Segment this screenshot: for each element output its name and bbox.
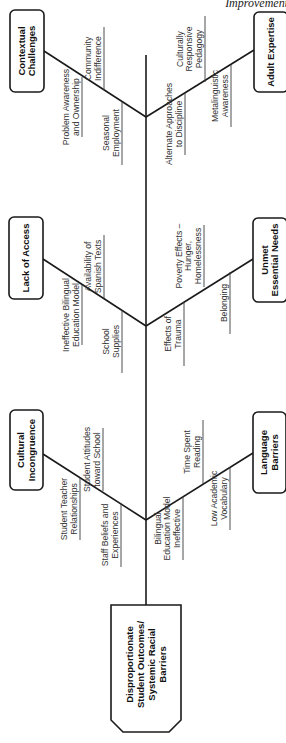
svg-text:Lack of Access: Lack of Access — [20, 224, 31, 293]
svg-text:SeasonalEmployment: SeasonalEmployment — [101, 109, 121, 157]
svg-text:Availability ofSpanish Texts: Availability ofSpanish Texts — [83, 240, 103, 293]
cause-label: Student Attitudestoward School — [82, 427, 102, 492]
svg-text:Low AcademicVocabulary: Low AcademicVocabulary — [209, 470, 229, 526]
cause-label: Staff Beliefs andExperiences — [100, 504, 120, 567]
svg-text:CulturallyResponsivePedagogy: CulturallyResponsivePedagogy — [175, 26, 205, 71]
adult-expertise-box: Adult Expertise — [254, 12, 286, 92]
problem-head: DisproportionateStudent Outcomes/Systemi… — [111, 605, 181, 732]
svg-text:Adult Expertise: Adult Expertise — [265, 17, 276, 87]
svg-text:Student TeacherRelationships: Student TeacherRelationships — [59, 478, 79, 541]
cause-label: SeasonalEmployment — [101, 109, 121, 157]
cause-label: CulturallyResponsivePedagogy — [175, 26, 205, 71]
cause-label: Student TeacherRelationships — [59, 478, 79, 541]
contextual-challenges-label: ContextualChallenges — [16, 26, 38, 77]
contextual-challenges-box: ContextualChallenges — [10, 10, 44, 92]
svg-text:SchoolSupplies: SchoolSupplies — [101, 325, 121, 358]
cause-label: CommunityIndifference — [83, 36, 103, 81]
adult-expertise-label: Adult Expertise — [265, 17, 276, 87]
svg-text:Poverty Effects –Hunger,Homele: Poverty Effects –Hunger,Homelessness — [174, 223, 204, 288]
lack-of-access-box: Lack of Access — [9, 217, 43, 299]
cause-label: Ineffective BilingualEducation Model — [61, 278, 81, 352]
svg-text:CommunityIndifference: CommunityIndifference — [83, 36, 103, 81]
language-barriers-box: LanguageBarriers — [253, 412, 286, 493]
cause-label: Effects ofTrauma — [163, 316, 183, 352]
svg-text:Student Attitudestoward School: Student Attitudestoward School — [82, 427, 102, 492]
category-boxes: ContextualChallengesAdult ExpertiseLack … — [9, 10, 286, 493]
cause-label: Time SpentReading — [182, 430, 202, 474]
svg-text:Belonging: Belonging — [219, 284, 229, 322]
language-barriers-label: LanguageBarriers — [258, 430, 280, 475]
cause-label: Problem Awarenessand Ownership — [61, 69, 81, 145]
cause-label: MetalinguisticAwareness — [210, 69, 230, 122]
svg-text:BilingualEducation ModelIneffe: BilingualEducation ModelIneffective — [153, 496, 183, 560]
branches: CommunityIndifferenceProblem Awarenessan… — [43, 16, 254, 567]
cause-label: Poverty Effects –Hunger,Homelessness — [174, 223, 204, 288]
cause-label: Availability ofSpanish Texts — [83, 240, 103, 293]
svg-text:ContextualChallenges: ContextualChallenges — [16, 26, 38, 77]
svg-text:Staff Beliefs andExperiences: Staff Beliefs andExperiences — [100, 504, 120, 567]
svg-text:MetalinguisticAwareness: MetalinguisticAwareness — [210, 69, 230, 122]
unmet-essential-needs-box: UnmetEssential Needs — [253, 218, 286, 302]
svg-text:Effects ofTrauma: Effects ofTrauma — [163, 316, 183, 352]
lack-of-access-label: Lack of Access — [20, 224, 31, 293]
cultural-incongruence-box: CulturalIncongruence — [10, 410, 43, 490]
svg-text:Time SpentReading: Time SpentReading — [182, 430, 202, 474]
cause-label: Low AcademicVocabulary — [209, 470, 229, 526]
svg-text:Ineffective BilingualEducation: Ineffective BilingualEducation Model — [61, 278, 81, 352]
svg-text:Problem Awarenessand Ownership: Problem Awarenessand Ownership — [61, 69, 81, 145]
svg-text:LanguageBarriers: LanguageBarriers — [258, 430, 280, 475]
cause-label: SchoolSupplies — [101, 325, 121, 358]
fishbone-diagram: CommunityIndifferenceProblem Awarenessan… — [0, 0, 286, 743]
cause-label: BilingualEducation ModelIneffective — [153, 496, 183, 560]
cause-label: Belonging — [219, 284, 229, 322]
